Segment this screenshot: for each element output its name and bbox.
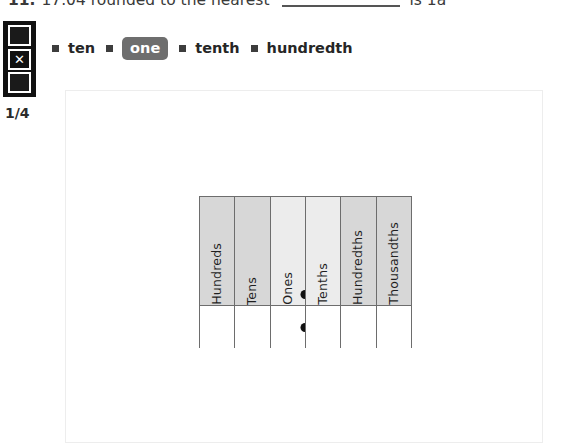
column-hundreds: Hundreds — [200, 197, 235, 305]
column-label: Ones — [282, 268, 295, 305]
navigation-widget[interactable]: ✕ — [3, 21, 36, 97]
choice-one[interactable]: one — [122, 37, 168, 60]
column-label: Hundredths — [352, 226, 365, 305]
square-up-icon[interactable] — [8, 25, 31, 46]
cell-ones[interactable] — [271, 306, 306, 348]
column-tenths: Tenths — [306, 197, 341, 305]
question-number: 11. — [8, 0, 35, 9]
column-ones: Ones — [271, 197, 306, 305]
question-line: 11. 17.04 rounded to the nearest is 1a — [8, 0, 568, 13]
cell-tens[interactable] — [235, 306, 270, 348]
choice-tenth[interactable]: tenth — [195, 40, 239, 56]
column-label: Thousandths — [388, 218, 401, 305]
column-label: Tens — [246, 273, 259, 305]
choice-ten[interactable]: ten — [68, 40, 95, 56]
column-label: Tenths — [317, 259, 330, 305]
column-tens: Tens — [235, 197, 270, 305]
place-value-header-row: Hundreds Tens Ones Tenths Hundredths Tho… — [200, 197, 411, 305]
x-icon[interactable]: ✕ — [8, 49, 31, 70]
column-thousandths: Thousandths — [377, 197, 411, 305]
question-text: 17.04 rounded to the nearest — [41, 0, 269, 9]
page-counter: 1/4 — [5, 105, 30, 121]
cell-thousandths[interactable] — [377, 306, 411, 348]
cell-hundredths[interactable] — [341, 306, 376, 348]
place-value-body-row — [200, 305, 411, 348]
cell-hundreds[interactable] — [200, 306, 235, 348]
cell-tenths[interactable] — [306, 306, 341, 348]
square-bullet-icon — [52, 45, 59, 52]
square-down-icon[interactable] — [8, 72, 31, 93]
column-hundredths: Hundredths — [341, 197, 376, 305]
answer-choices: ten one tenth hundredth — [52, 36, 364, 60]
choice-hundredth[interactable]: hundredth — [267, 40, 353, 56]
place-value-chart: Hundreds Tens Ones Tenths Hundredths Tho… — [199, 196, 412, 348]
answer-blank[interactable] — [282, 0, 400, 7]
square-bullet-icon — [251, 45, 258, 52]
square-bullet-icon — [179, 45, 186, 52]
question-tail: is 1a — [410, 0, 447, 9]
square-bullet-icon — [106, 45, 113, 52]
column-label: Hundreds — [211, 239, 224, 305]
